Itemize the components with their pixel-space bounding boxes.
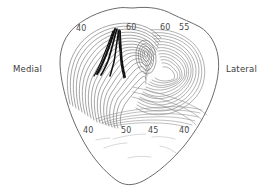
contour-value-label-top-4: 55 bbox=[179, 23, 189, 32]
contour-figure: Medial Lateral 40 60 60 55 40 50 45 40 bbox=[0, 0, 270, 196]
specimen-outline bbox=[60, 7, 219, 184]
specimen-outline-group bbox=[60, 7, 219, 184]
contour-value-label-bottom-4: 40 bbox=[179, 126, 189, 135]
contour-value-label-top-1: 40 bbox=[76, 24, 86, 33]
steep-gradient-band bbox=[94, 29, 125, 78]
contour-central-closed-loops bbox=[134, 39, 157, 75]
contour-value-label-bottom-3: 45 bbox=[148, 126, 158, 135]
contour-value-label-top-2: 60 bbox=[126, 23, 136, 32]
orientation-label-lateral: Lateral bbox=[226, 64, 257, 74]
orientation-label-medial: Medial bbox=[13, 64, 42, 74]
contour-value-label-bottom-2: 50 bbox=[121, 126, 131, 135]
contour-value-label-bottom-1: 40 bbox=[83, 126, 93, 135]
contour-lines-faint-lower-group bbox=[96, 134, 176, 158]
contour-value-label-top-3: 60 bbox=[160, 23, 170, 32]
